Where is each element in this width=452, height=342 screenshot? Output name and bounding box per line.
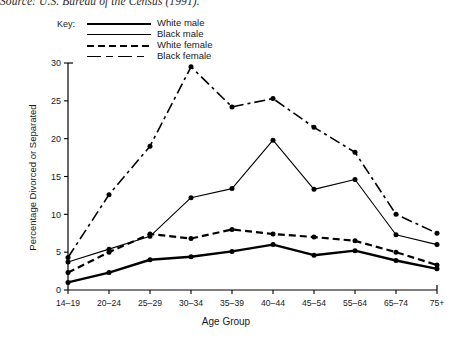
data-point xyxy=(353,150,358,155)
series-line xyxy=(68,229,437,272)
plot-area: 05101520253014–1920–2425–2930–3435–3940–… xyxy=(0,0,452,342)
data-point xyxy=(189,254,194,259)
series-white-male xyxy=(66,242,440,285)
x-tick-label: 35–39 xyxy=(220,298,244,308)
y-tick-label: 20 xyxy=(51,134,61,144)
data-point xyxy=(435,231,440,236)
data-point xyxy=(230,227,235,232)
x-tick-label: 55–64 xyxy=(343,298,367,308)
x-tick-label: 14–19 xyxy=(56,298,80,308)
data-point xyxy=(230,186,235,191)
y-axis-label: Percentage Divorced or Separated xyxy=(27,78,38,278)
data-point xyxy=(189,195,194,200)
x-tick-label: 45–54 xyxy=(302,298,326,308)
y-tick-label: 5 xyxy=(56,247,61,257)
y-tick-label: 10 xyxy=(51,210,61,220)
data-point xyxy=(312,253,317,258)
data-point xyxy=(66,270,71,275)
figure-divorced-separated-by-age: Source: U.S. Bureau of the Census (1991)… xyxy=(0,0,452,342)
data-point xyxy=(312,125,317,130)
series-line xyxy=(68,140,437,262)
data-point xyxy=(107,270,112,275)
data-point xyxy=(271,96,276,101)
series-black-female xyxy=(66,64,440,260)
data-point xyxy=(394,212,399,217)
data-point xyxy=(353,238,358,243)
data-point xyxy=(230,104,235,109)
data-point xyxy=(271,232,276,237)
data-point xyxy=(394,258,399,263)
data-point xyxy=(189,236,194,241)
data-point xyxy=(148,144,153,149)
series-line xyxy=(68,67,437,258)
data-point xyxy=(353,248,358,253)
data-point xyxy=(435,242,440,247)
data-point xyxy=(66,280,71,285)
data-point xyxy=(66,260,71,265)
y-tick-label: 0 xyxy=(56,285,61,295)
data-point xyxy=(107,250,112,255)
data-point xyxy=(148,232,153,237)
data-point xyxy=(394,232,399,237)
data-point xyxy=(189,64,194,69)
y-tick-label: 25 xyxy=(51,96,61,106)
y-tick-label: 15 xyxy=(51,172,61,182)
x-tick-label: 25–29 xyxy=(138,298,162,308)
x-tick-label: 30–34 xyxy=(179,298,203,308)
x-tick-label: 75+ xyxy=(430,298,445,308)
data-point xyxy=(271,242,276,247)
data-point xyxy=(148,257,153,262)
data-point xyxy=(435,263,440,268)
data-point xyxy=(353,177,358,182)
line-chart-svg: 05101520253014–1920–2425–2930–3435–3940–… xyxy=(0,0,452,342)
y-tick-label: 30 xyxy=(51,58,61,68)
data-point xyxy=(66,255,71,260)
data-point xyxy=(394,250,399,255)
x-tick-label: 40–44 xyxy=(261,298,285,308)
data-point xyxy=(312,187,317,192)
x-axis-label: Age Group xyxy=(0,316,452,327)
data-point xyxy=(312,235,317,240)
x-tick-label: 65–74 xyxy=(384,298,408,308)
x-tick-label: 20–24 xyxy=(97,298,121,308)
data-point xyxy=(230,249,235,254)
series-line xyxy=(68,245,437,283)
data-point xyxy=(271,138,276,143)
data-point xyxy=(107,192,112,197)
